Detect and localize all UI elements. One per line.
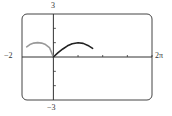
x-max-label: 2π [155,52,163,60]
x-min-label: −2 [4,52,13,60]
left-arc-curve [27,43,54,57]
y-min-label: −3 [47,104,56,112]
axes [22,14,152,100]
right-arc-curve [53,43,92,57]
chart-plot [0,0,172,116]
y-max-label: 3 [51,2,55,10]
curves [27,43,93,57]
